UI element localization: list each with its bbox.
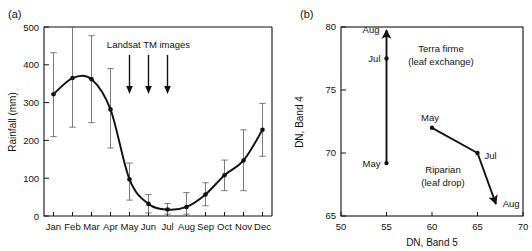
figure-svg: (a) 0 100 200 300 400: [0, 0, 532, 251]
panel-b-x-ticks: [341, 212, 523, 216]
panel-a-point-jul: [165, 207, 170, 212]
panel-b-ytick-label-65: 65: [325, 210, 336, 221]
panel-a: (a) 0 100 200 300 400: [7, 8, 272, 232]
panel-b-label-riparian-aug: Aug: [503, 198, 520, 209]
figure-container: (a) 0 100 200 300 400: [0, 0, 532, 251]
arrow-head: [126, 86, 133, 94]
panel-a-y-ticks: [44, 27, 49, 216]
panel-a-point-jun: [146, 202, 151, 207]
panel-a-point-mar: [89, 77, 94, 82]
panel-a-ytick-2: 200: [23, 135, 39, 146]
panel-b-group-annotations: Terra firme(leaf exchange)Riparian(leaf …: [408, 43, 473, 188]
panel-b-y-axis-title: DN, Band 4: [294, 96, 305, 148]
panel-a-y-axis-title: Rainfall (mm): [7, 92, 18, 151]
panel-a-xtick-label-apr: Apr: [103, 221, 118, 232]
panel-b-label-terra-firme-may: May: [363, 158, 381, 169]
panel-b-y-tick-labels: 65707580: [325, 21, 336, 221]
panel-a-rainfall-curve: [54, 76, 263, 210]
panel-b-label: (b): [300, 8, 313, 20]
landsat-annotation-label: Landsat TM images: [107, 39, 191, 50]
panel-a-point-apr: [108, 107, 113, 112]
panel-a-xtick-label-sep: Sep: [197, 221, 214, 232]
panel-a-xtick-label-nov: Nov: [235, 221, 252, 232]
panel-a-xtick-label-aug: Aug: [178, 221, 195, 232]
panel-b-label-riparian-jul: Jul: [485, 150, 497, 161]
panel-a-xtick-label-jun: Jun: [141, 221, 156, 232]
panel-b-point-riparian-may: [430, 126, 434, 130]
panel-a-x-ticks: [54, 212, 263, 216]
panel-a-xtick-label-may: May: [121, 221, 139, 232]
panel-a-axis-lines: [44, 27, 272, 216]
panel-a-data-markers: [51, 76, 265, 212]
panel-a-ytick-3: 300: [23, 97, 39, 108]
panel-a-axes: [44, 27, 272, 216]
panel-b-x-axis-title: DN, Band 5: [406, 237, 458, 248]
panel-b-point-riparian-jul: [475, 151, 479, 155]
panel-a-point-dec: [260, 128, 265, 133]
panel-a-point-nov: [241, 158, 246, 163]
landsat-arrows: [126, 55, 171, 94]
panel-b-xtick-label-50: 50: [336, 221, 347, 232]
landsat-arrow-may: [126, 55, 133, 94]
panel-a-xtick-label-mar: Mar: [83, 221, 99, 232]
panel-a-ytick-0: 0: [34, 211, 39, 222]
panel-a-xtick-label-jan: Jan: [46, 221, 61, 232]
arrow-head: [164, 86, 171, 94]
panel-b-annotation-riparian-line-1: (leaf drop): [421, 177, 464, 188]
panel-b-y-ticks: [341, 27, 346, 216]
panel-b-label-terra-firme-aug: Aug: [363, 24, 380, 35]
panel-a-xtick-label-oct: Oct: [217, 221, 232, 232]
panel-b-annotation-terra-firme-line-0: Terra firme: [418, 43, 463, 54]
panel-b-annotation-riparian-line-0: Riparian: [425, 164, 460, 175]
panel-b-point-terra-firme-jul: [384, 56, 388, 60]
panel-a-point-jan: [51, 92, 56, 97]
panel-b-xtick-label-55: 55: [381, 221, 392, 232]
panel-b-series-terra-firme: [384, 31, 388, 166]
panel-a-point-aug: [184, 205, 189, 210]
landsat-arrow-jun: [145, 55, 152, 94]
panel-a-xtick-label-dec: Dec: [254, 221, 271, 232]
panel-a-point-oct: [222, 173, 227, 178]
panel-a-point-feb: [70, 76, 75, 81]
panel-a-point-may: [127, 177, 132, 182]
panel-a-errorbar-aug: [183, 193, 189, 215]
panel-a-point-sep: [203, 192, 208, 197]
panel-b-xtick-label-60: 60: [427, 221, 438, 232]
landsat-arrow-jul: [164, 55, 171, 94]
panel-a-ytick-1: 100: [23, 173, 39, 184]
arrow-head: [145, 86, 152, 94]
panel-a-x-tick-labels: JanFebMarAprMayJunJulAugSepOctNovDec: [46, 221, 271, 232]
panel-a-xtick-label-jul: Jul: [161, 221, 173, 232]
panel-b-xtick-label-70: 70: [518, 221, 529, 232]
panel-b-annotation-terra-firme-line-1: (leaf exchange): [408, 56, 473, 67]
panel-b-x-tick-labels: 5055606570: [336, 221, 529, 232]
panel-b-label-terra-firme-jul: Jul: [368, 53, 380, 64]
panel-b-ytick-label-80: 80: [325, 21, 336, 32]
panel-b-ytick-label-70: 70: [325, 147, 336, 158]
panel-b-ytick-label-75: 75: [325, 84, 336, 95]
panel-b-label-riparian-may: May: [421, 112, 439, 123]
panel-b-xtick-label-65: 65: [472, 221, 483, 232]
panel-a-label: (a): [8, 8, 21, 20]
panel-a-error-bars: [50, 27, 265, 214]
panel-a-ytick-5: 500: [23, 22, 39, 33]
panel-b: (b) 5055606570 65707580 DN, Band 5 DN, B…: [294, 8, 528, 248]
panel-a-xtick-label-feb: Feb: [64, 221, 80, 232]
panel-a-ytick-4: 400: [23, 59, 39, 70]
panel-a-y-tick-labels: 0 100 200 300 400 500: [23, 22, 39, 222]
panel-b-point-terra-firme-may: [384, 161, 388, 165]
